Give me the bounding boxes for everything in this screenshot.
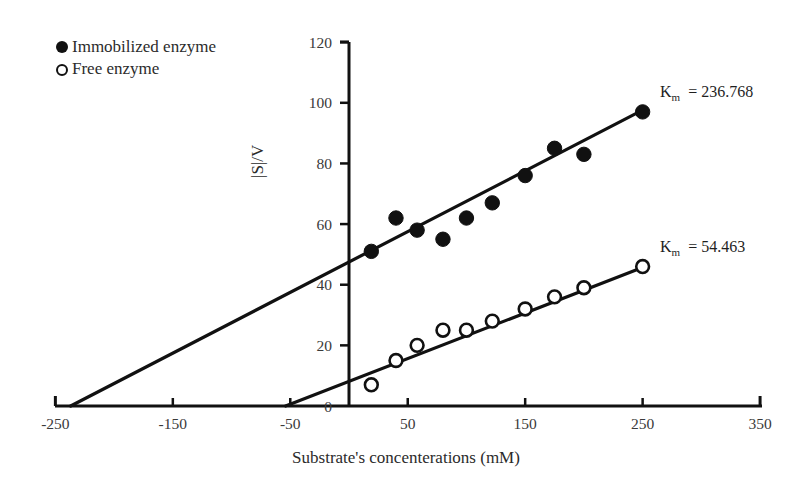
series-immobilized bbox=[71, 105, 650, 406]
data-point bbox=[364, 244, 378, 258]
x-tick-label: 250 bbox=[631, 415, 655, 432]
x-tick-label: -50 bbox=[280, 415, 301, 432]
km-annotation: Km = 54.463 bbox=[660, 238, 745, 258]
data-point bbox=[519, 303, 532, 316]
data-point bbox=[411, 339, 424, 352]
data-point bbox=[486, 315, 499, 328]
legend-label-free: Free enzyme bbox=[72, 58, 159, 80]
legend-item-free: Free enzyme bbox=[56, 58, 216, 80]
data-point bbox=[577, 147, 591, 161]
data-point bbox=[578, 281, 591, 294]
data-point bbox=[459, 211, 473, 225]
y-tick-label: 80 bbox=[317, 155, 333, 172]
series-free bbox=[286, 260, 649, 406]
y-tick-label: 60 bbox=[317, 216, 333, 233]
open-circle-icon bbox=[56, 64, 68, 76]
data-series-group bbox=[71, 105, 650, 406]
data-point bbox=[548, 290, 561, 303]
lineweaver-burk-chart: -250-150-5050150250350 020406080100120 K… bbox=[0, 0, 812, 483]
y-tick-label: 0 bbox=[324, 398, 332, 415]
filled-circle-icon bbox=[56, 41, 68, 53]
km-annotation: Km = 236.768 bbox=[660, 83, 753, 103]
data-point bbox=[390, 354, 403, 367]
x-axis-tick-labels: -250-150-5050150250350 bbox=[41, 415, 772, 432]
x-axis-title: Substrate's concenterations (mM) bbox=[0, 448, 812, 468]
y-tick-label: 120 bbox=[309, 34, 333, 51]
y-axis-title: |S|/V bbox=[248, 145, 268, 178]
x-tick-label: 350 bbox=[748, 415, 772, 432]
y-axis-tick-labels: 020406080100120 bbox=[309, 34, 333, 415]
legend-item-immobilized: Immobilized enzyme bbox=[56, 36, 216, 58]
annotations-group: Km = 236.768Km = 54.463 bbox=[660, 83, 753, 258]
data-point bbox=[460, 324, 473, 337]
data-point bbox=[518, 168, 532, 182]
data-point bbox=[436, 232, 450, 246]
x-tick-label: -150 bbox=[159, 415, 188, 432]
x-tick-label: 150 bbox=[514, 415, 538, 432]
x-tick-label: -250 bbox=[41, 415, 70, 432]
data-point bbox=[437, 324, 450, 337]
y-tick-label: 20 bbox=[317, 337, 333, 354]
legend-label-immobilized: Immobilized enzyme bbox=[72, 36, 216, 58]
x-tick-label: 50 bbox=[400, 415, 416, 432]
data-point bbox=[635, 105, 649, 119]
data-point bbox=[547, 141, 561, 155]
chart-legend: Immobilized enzyme Free enzyme bbox=[56, 36, 216, 81]
y-tick-label: 100 bbox=[309, 94, 333, 111]
data-point bbox=[389, 211, 403, 225]
data-point bbox=[636, 260, 649, 273]
data-point bbox=[365, 378, 378, 391]
data-point bbox=[485, 196, 499, 210]
data-point bbox=[410, 223, 424, 237]
